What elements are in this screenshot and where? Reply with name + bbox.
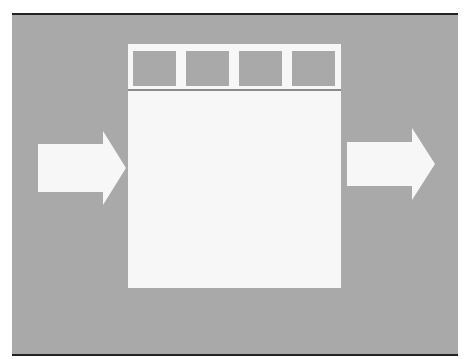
room-header-breaker — [133, 51, 176, 86]
input-arrow-shape — [38, 131, 126, 205]
process-diagram — [0, 0, 464, 359]
room-box — [292, 51, 335, 86]
room-header-carding — [186, 51, 229, 86]
room-header-weaving — [292, 51, 335, 86]
output-arrow-shape — [347, 128, 435, 200]
input-arrow — [38, 131, 126, 205]
room-box — [133, 51, 176, 86]
output-arrow — [347, 128, 435, 200]
room-box — [186, 51, 229, 86]
room-header-spinning — [239, 51, 282, 86]
room-box — [239, 51, 282, 86]
